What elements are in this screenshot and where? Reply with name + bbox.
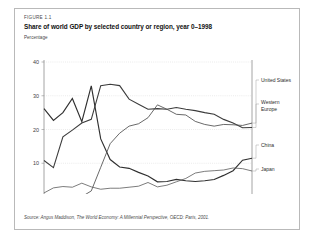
legend-label[interactable]: United States bbox=[261, 77, 292, 83]
y-axis-unit-label: Percentage bbox=[24, 35, 48, 40]
legend-label[interactable]: Japan bbox=[261, 166, 275, 172]
y-axis-tick-label: 30 bbox=[33, 93, 39, 99]
y-axis-tick-label: 20 bbox=[33, 127, 39, 133]
series-line-china bbox=[44, 86, 252, 182]
chart-plot-area: 010203040 010001500160017001820187019001… bbox=[24, 42, 292, 194]
figure-label: FIGURE 1.1 bbox=[24, 15, 52, 20]
series-line-western-europe bbox=[44, 84, 252, 167]
y-axis-tick-label: 40 bbox=[33, 59, 39, 65]
legend-label[interactable]: China bbox=[261, 142, 274, 148]
series-lines bbox=[44, 84, 252, 194]
source-note: Source: Angus Maddison, The World Econom… bbox=[24, 215, 209, 220]
chart-legend: United StatesWesternEuropeChinaJapan bbox=[252, 77, 292, 172]
page-title: Share of world GDP by selected country o… bbox=[24, 23, 212, 30]
series-line-japan bbox=[44, 168, 252, 193]
y-axis-tick-label: 10 bbox=[33, 160, 39, 166]
legend-label[interactable]: Europe bbox=[261, 106, 277, 112]
legend-label[interactable]: Western bbox=[261, 99, 280, 105]
line-chart: 010203040 010001500160017001820187019001… bbox=[24, 42, 292, 194]
figure-frame: FIGURE 1.1 Share of world GDP by selecte… bbox=[14, 8, 300, 230]
